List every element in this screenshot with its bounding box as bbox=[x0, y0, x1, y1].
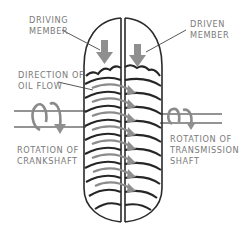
driven-member-leader bbox=[146, 30, 186, 52]
crankshaft-rotation-icon bbox=[33, 103, 66, 134]
label-oil-flow-1: DIRECTION OF bbox=[18, 70, 84, 80]
transmission-rotation-icon bbox=[168, 109, 196, 130]
driven-vane-edge bbox=[125, 65, 160, 76]
label-transmission-3: SHAFT bbox=[170, 156, 200, 166]
driving-vane-edge bbox=[86, 66, 121, 76]
driven-member-arrow bbox=[129, 44, 146, 67]
label-transmission-1: ROTATION OF bbox=[170, 134, 232, 144]
label-driving-member-2: MEMBER bbox=[29, 26, 68, 36]
label-driven-member-2: MEMBER bbox=[190, 30, 229, 40]
label-transmission-2: TRANSMISSION bbox=[169, 145, 239, 155]
label-crankshaft-1: ROTATION OF bbox=[17, 145, 79, 155]
crankshaft bbox=[14, 111, 86, 127]
label-crankshaft-2: CRANKSHAFT bbox=[17, 156, 78, 166]
driving-member-arrow bbox=[96, 40, 113, 64]
label-driven-member-1: DRIVEN bbox=[190, 19, 225, 29]
fluid-coupling-diagram: DRIVING MEMBER DRIVEN MEMBER DIRECTION O… bbox=[0, 0, 243, 238]
label-oil-flow-2: OIL FLOW bbox=[18, 81, 62, 91]
label-driving-member-1: DRIVING bbox=[29, 15, 68, 25]
